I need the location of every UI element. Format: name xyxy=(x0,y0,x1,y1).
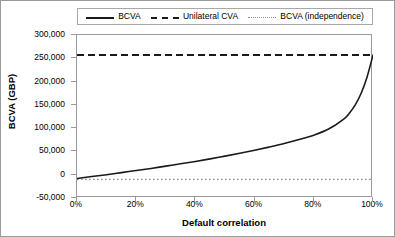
chart-legend: BCVA Unilateral CVA BCVA (independence) xyxy=(77,8,373,25)
legend-item-bcva: BCVA xyxy=(86,12,141,21)
legend-item-unilateral-cva: Unilateral CVA xyxy=(151,12,238,21)
y-axis-title-text: BCVA (GBP) xyxy=(7,73,18,128)
legend-item-bcva-independence: BCVA (independence) xyxy=(248,12,363,21)
y-axis-tick-label: 150,000 xyxy=(17,100,65,109)
y-axis-tick-label: 250,000 xyxy=(17,53,65,62)
y-axis-tick-label: 50,000 xyxy=(17,146,65,155)
x-axis-title: Default correlation xyxy=(76,217,372,228)
series-line-bcva xyxy=(77,55,373,178)
y-axis-tick-label: 100,000 xyxy=(17,123,65,132)
legend-label-bcva-independence: BCVA (independence) xyxy=(280,12,363,21)
chart-figure: BCVA Unilateral CVA BCVA (independence) … xyxy=(0,0,395,237)
y-axis-tick-label: 200,000 xyxy=(17,76,65,85)
chart-plot-lines xyxy=(77,35,373,198)
legend-swatch-solid-line-icon xyxy=(86,13,114,20)
legend-label-unilateral-cva: Unilateral CVA xyxy=(183,12,238,21)
y-axis-tick-label: 300,000 xyxy=(17,30,65,39)
y-axis-tick-label: 0 xyxy=(17,169,65,178)
plot-area xyxy=(76,34,372,197)
legend-swatch-dotted-line-icon xyxy=(248,13,276,20)
legend-label-bcva: BCVA xyxy=(118,12,141,21)
legend-swatch-dashed-line-icon xyxy=(151,13,179,20)
